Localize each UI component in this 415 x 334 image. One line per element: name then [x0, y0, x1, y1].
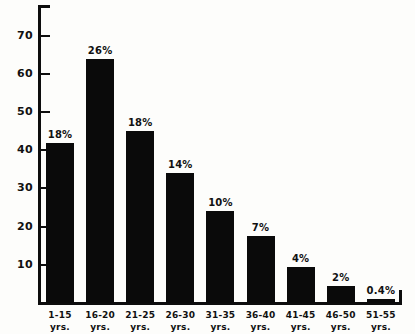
category-label-range: 36-40: [241, 309, 281, 321]
bar-value-label: 26%: [88, 45, 113, 56]
bar-group[interactable]: 18%: [46, 5, 74, 303]
category-label-unit: yrs.: [241, 321, 281, 333]
bar-group[interactable]: 10%: [206, 5, 234, 303]
bar-group[interactable]: 2%: [327, 5, 355, 303]
category-label-range: 51-55: [361, 309, 401, 321]
bar-value-label: 4%: [292, 253, 309, 264]
bar-group[interactable]: 4%: [287, 5, 315, 303]
y-axis-tick-label: 50: [0, 105, 33, 117]
category-label: 46-50yrs.: [321, 309, 361, 333]
y-axis-tick-label: 40: [0, 143, 33, 155]
category-label-range: 31-35: [200, 309, 240, 321]
category-label-range: 1-15: [40, 309, 80, 321]
y-axis-tick-label-text: 70: [3, 29, 33, 42]
category-label-unit: yrs.: [160, 321, 200, 333]
bar[interactable]: [327, 286, 355, 303]
category-label-range: 41-45: [281, 309, 321, 321]
y-axis-tick-label-text: 60: [3, 67, 33, 80]
category-label-unit: yrs.: [120, 321, 160, 333]
category-label-unit: yrs.: [200, 321, 240, 333]
bar-group[interactable]: 14%: [166, 5, 194, 303]
category-label: 36-40yrs.: [241, 309, 281, 333]
category-label-unit: yrs.: [361, 321, 401, 333]
plot-area: 18%26%18%14%10%7%4%2%0.4%: [41, 5, 402, 303]
category-label: 26-30yrs.: [160, 309, 200, 333]
bar-group[interactable]: 7%: [247, 5, 275, 303]
bar-value-label: 18%: [48, 129, 73, 140]
cropped-title-remnant: [150, 0, 400, 3]
bar-value-label: 0.4%: [367, 285, 396, 296]
bar[interactable]: [206, 211, 234, 303]
y-axis-tick-label: 10: [0, 258, 33, 270]
bar[interactable]: [247, 236, 275, 303]
category-label-unit: yrs.: [40, 321, 80, 333]
category-label-range: 16-20: [80, 309, 120, 321]
category-label: 41-45yrs.: [281, 309, 321, 333]
category-label-unit: yrs.: [80, 321, 120, 333]
bar-value-label: 14%: [168, 159, 193, 170]
category-label: 51-55yrs.: [361, 309, 401, 333]
bar[interactable]: [126, 131, 154, 303]
y-axis-tick-label-text: 50: [3, 105, 33, 118]
category-label-range: 21-25: [120, 309, 160, 321]
bar[interactable]: [166, 173, 194, 303]
y-axis-tick-label: 30: [0, 181, 33, 193]
category-label-unit: yrs.: [281, 321, 321, 333]
category-label-unit: yrs.: [321, 321, 361, 333]
y-axis-tick-label-text: 30: [3, 181, 33, 194]
bar[interactable]: [86, 59, 114, 304]
y-axis-tick-label-text: 20: [3, 220, 33, 233]
bar-group[interactable]: 26%: [86, 5, 114, 303]
y-axis-tick-label-text: 10: [3, 258, 33, 271]
x-axis-category-labels: 1-15yrs.16-20yrs.21-25yrs.26-30yrs.31-35…: [41, 309, 402, 334]
y-axis-tick-label: 60: [0, 67, 33, 79]
bar[interactable]: [367, 299, 395, 303]
y-axis-tick-label-text: 40: [3, 143, 33, 156]
category-label-range: 26-30: [160, 309, 200, 321]
category-label: 31-35yrs.: [200, 309, 240, 333]
bar-group[interactable]: 0.4%: [367, 5, 395, 303]
bar-value-label: 10%: [208, 197, 233, 208]
bar-value-label: 2%: [332, 272, 349, 283]
category-label: 16-20yrs.: [80, 309, 120, 333]
category-label: 1-15yrs.: [40, 309, 80, 333]
category-label-range: 46-50: [321, 309, 361, 321]
bar-value-label: 7%: [252, 222, 269, 233]
y-axis-tick-label: 20: [0, 220, 33, 232]
bar-value-label: 18%: [128, 117, 153, 128]
bar[interactable]: [287, 267, 315, 303]
y-axis-tick-label: 70: [0, 29, 33, 41]
bar[interactable]: [46, 143, 74, 303]
bar-chart-figure: 10203040506070 18%26%18%14%10%7%4%2%0.4%…: [0, 0, 415, 334]
category-label: 21-25yrs.: [120, 309, 160, 333]
bar-group[interactable]: 18%: [126, 5, 154, 303]
